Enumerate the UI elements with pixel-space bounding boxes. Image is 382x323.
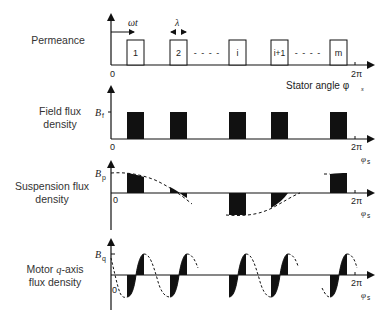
motor-origin-label: 0: [112, 285, 117, 295]
suspension-y-sub: p: [102, 174, 106, 182]
suspension-segment-2a: [170, 187, 180, 193]
suspension-2pi-label: 2π: [351, 196, 362, 206]
diagram-canvas: ωt λ 1 2 - - - - i i+1 - - - - m 0 2π St…: [0, 0, 382, 323]
field-origin-label: 0: [110, 142, 115, 152]
field-y-symbol: B: [95, 107, 101, 118]
motor-x-sub: s: [367, 294, 371, 301]
motor-y-symbol: B: [95, 249, 101, 260]
suspension-envelope-1: [111, 173, 192, 204]
suspension-segment-m: [330, 173, 347, 193]
motor-wave-iplus1-tail: [288, 254, 298, 266]
ellipsis-2: - - - -: [295, 48, 322, 58]
field-2pi-label: 2π: [351, 142, 362, 152]
motor-wave-2-tail: [187, 254, 198, 268]
lambda-label: λ: [174, 17, 180, 28]
field-bar-i: [229, 112, 246, 139]
motor-2pi-label: 2π: [351, 278, 362, 288]
suspension-origin-label: 0: [113, 195, 118, 205]
permeance-2pi-label: 2π: [351, 69, 362, 79]
motor-wave-m-head: [322, 288, 330, 297]
suspension-segment-i: [229, 193, 246, 215]
field-bar-m: [330, 112, 347, 139]
suspension-segment-1: [127, 173, 144, 193]
permeance-panel: ωt λ 1 2 - - - - i i+1 - - - - m 0 2π St…: [110, 15, 373, 93]
permeance-origin-label: 0: [110, 69, 115, 79]
field-x-sub: s: [367, 158, 371, 165]
suspension-flux-panel: B p 0 2π φ s: [95, 162, 373, 230]
stator-angle-label: Stator angle φ: [286, 80, 350, 91]
field-bar-1: [127, 112, 144, 139]
time-arrow-label: ωt: [128, 17, 138, 28]
field-x-symbol: φ: [361, 154, 366, 164]
field-bar-2: [170, 112, 187, 139]
motor-y-sub: q: [102, 255, 106, 263]
pole-label-i: i: [237, 48, 239, 58]
suspension-y-symbol: B: [95, 168, 101, 179]
field-y-sub: f: [102, 112, 104, 119]
suspension-x-symbol: φ: [361, 208, 366, 218]
flux-density-diagram: Permeance Field flux density Suspension …: [0, 0, 382, 323]
motor-x-symbol: φ: [361, 290, 366, 300]
motor-wave-m-tail: [347, 254, 357, 268]
suspension-x-sub: s: [367, 212, 371, 219]
field-flux-panel: B f 0 2π φ s: [95, 87, 373, 165]
stator-angle-sub: s: [361, 85, 364, 93]
pole-label-2: 2: [176, 48, 181, 58]
pole-label-m: m: [335, 48, 343, 58]
field-bar-i-plus-1: [271, 112, 288, 139]
pole-label-i-plus-1: i+1: [274, 48, 286, 58]
motor-q-axis-panel: B q: [95, 240, 373, 310]
pole-label-1: 1: [133, 48, 138, 58]
ellipsis-1: - - - -: [194, 48, 221, 58]
